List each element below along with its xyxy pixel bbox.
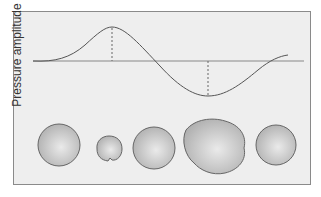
bubble-rest <box>38 124 80 166</box>
bubble-return <box>256 125 296 165</box>
bubble-expanded <box>184 119 245 174</box>
diagram-canvas <box>0 0 321 197</box>
bubble-compressed <box>97 136 122 161</box>
bubble-equilibrium <box>133 127 175 169</box>
